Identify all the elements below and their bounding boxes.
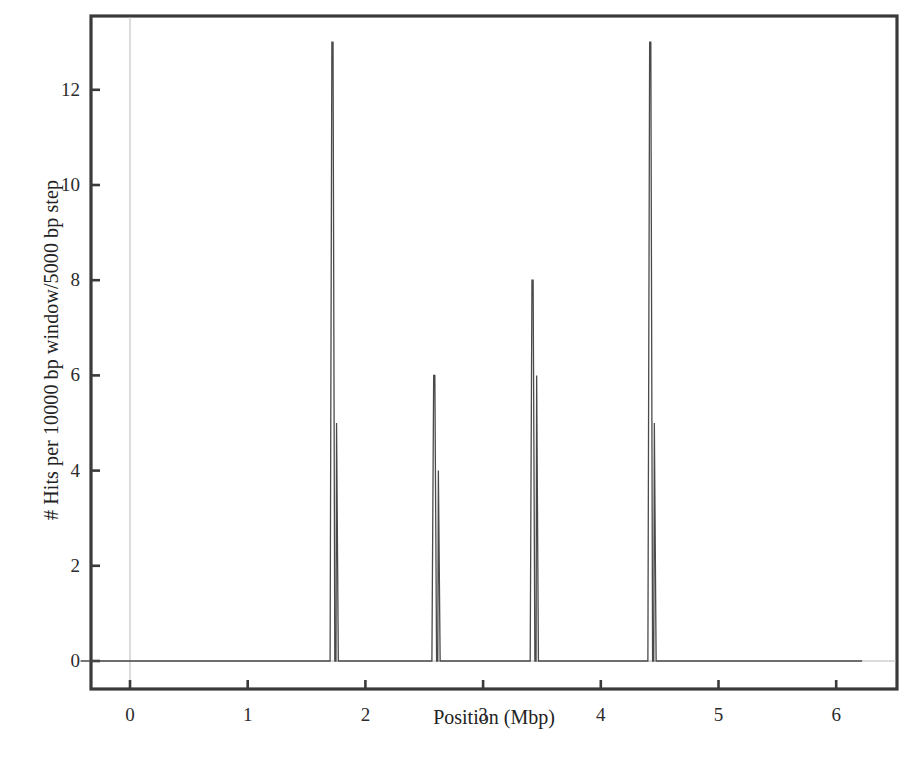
zero-reference-lines	[92, 17, 896, 688]
plot-frame	[91, 16, 897, 689]
caption-fragment	[4, 766, 324, 780]
figure-panel: # Hits per 10000 bp window/5000 bp step …	[0, 0, 910, 781]
hit-density-trace	[81, 42, 863, 661]
plot-area	[0, 0, 910, 781]
axis-tick-marks	[92, 90, 836, 688]
